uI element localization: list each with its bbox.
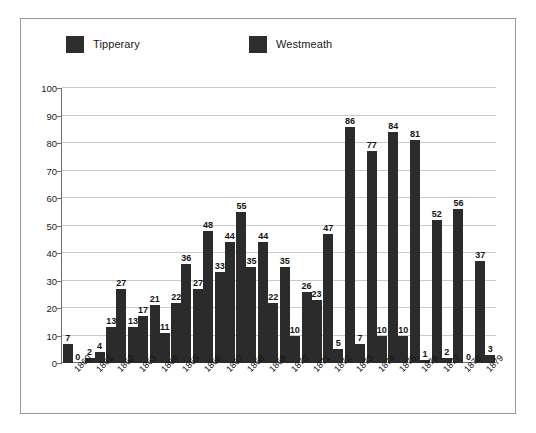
bar-value-label: 36 bbox=[181, 253, 191, 264]
bar-group: 867 bbox=[345, 88, 365, 363]
bar[interactable]: 81 bbox=[410, 140, 420, 363]
bar[interactable]: 23 bbox=[312, 300, 322, 363]
y-tick-label-10: 10 bbox=[46, 330, 57, 341]
bar-value-label: 7 bbox=[357, 333, 362, 344]
legend-label-tipperary: Tipperary bbox=[93, 38, 140, 50]
bar-group: 3510 bbox=[280, 88, 300, 363]
bar-value-label: 10 bbox=[398, 325, 408, 336]
bar[interactable]: 35 bbox=[246, 267, 256, 363]
y-tick-label-60: 60 bbox=[46, 193, 57, 204]
bar[interactable]: 55 bbox=[236, 212, 246, 363]
bar[interactable]: 84 bbox=[388, 132, 398, 363]
bar-value-label: 47 bbox=[323, 223, 333, 234]
bar[interactable]: 35 bbox=[280, 267, 290, 363]
bar-group: 1317 bbox=[128, 88, 148, 363]
y-tick-label-40: 40 bbox=[46, 248, 57, 259]
bar-value-label: 86 bbox=[345, 116, 355, 127]
bar-group: 2748 bbox=[193, 88, 213, 363]
bar-value-label: 84 bbox=[388, 121, 398, 132]
bar-group: 2236 bbox=[171, 88, 191, 363]
bar-value-label: 7 bbox=[65, 333, 70, 344]
bar-value-label: 13 bbox=[106, 316, 116, 327]
bar[interactable]: 44 bbox=[258, 242, 268, 363]
bar-value-label: 81 bbox=[410, 129, 420, 140]
bar-value-label: 21 bbox=[150, 294, 160, 305]
bar-group: 2623 bbox=[302, 88, 322, 363]
bar[interactable]: 77 bbox=[367, 151, 377, 363]
bar-group: 8410 bbox=[388, 88, 408, 363]
bar-value-label: 3 bbox=[488, 344, 493, 355]
bar[interactable]: 44 bbox=[225, 242, 235, 363]
bar-value-label: 22 bbox=[268, 292, 278, 303]
bar-value-label: 5 bbox=[336, 338, 341, 349]
bar-value-label: 10 bbox=[377, 325, 387, 336]
legend-entry-tipperary[interactable]: Tipperary bbox=[66, 34, 140, 54]
bar-group: 811 bbox=[410, 88, 430, 363]
bar-value-label: 13 bbox=[128, 316, 138, 327]
bar-value-label: 26 bbox=[302, 281, 312, 292]
bar-value-label: 11 bbox=[160, 322, 170, 333]
legend-swatch-tipperary bbox=[66, 36, 84, 53]
bar-value-label: 27 bbox=[193, 278, 203, 289]
bar-value-label: 10 bbox=[290, 325, 300, 336]
bar-group: 3344 bbox=[215, 88, 235, 363]
y-tick-label-100: 100 bbox=[41, 83, 57, 94]
bar-group: 1327 bbox=[106, 88, 126, 363]
y-axis-labels: 1009080706050403020100 bbox=[21, 88, 57, 363]
bar-value-label: 44 bbox=[225, 231, 235, 242]
bar-value-label: 37 bbox=[475, 250, 485, 261]
bar-value-label: 2 bbox=[444, 347, 449, 358]
bar[interactable]: 37 bbox=[475, 261, 485, 363]
bar[interactable]: 56 bbox=[453, 209, 463, 363]
bar-value-label: 35 bbox=[246, 256, 256, 267]
bar-value-label: 33 bbox=[215, 261, 225, 272]
legend-entry-westmeath[interactable]: Westmeath bbox=[249, 34, 332, 54]
bar-group: 2111 bbox=[150, 88, 170, 363]
bar-group: 5535 bbox=[236, 88, 256, 363]
bar[interactable]: 27 bbox=[116, 289, 126, 363]
x-axis-labels: 1860186118621863186418651866186718681869… bbox=[62, 365, 496, 411]
bar[interactable]: 52 bbox=[432, 220, 442, 363]
bar-value-label: 77 bbox=[367, 140, 377, 151]
chart-legend: Tipperary Westmeath bbox=[21, 31, 515, 63]
bar-value-label: 44 bbox=[258, 231, 268, 242]
bar[interactable]: 7 bbox=[63, 344, 73, 363]
bar-value-label: 23 bbox=[312, 289, 322, 300]
bar-value-label: 17 bbox=[138, 305, 148, 316]
bar-group: 373 bbox=[475, 88, 495, 363]
bar-value-label: 35 bbox=[280, 256, 290, 267]
y-tick-label-70: 70 bbox=[46, 165, 57, 176]
bar-group: 560 bbox=[453, 88, 473, 363]
bar-group: 4422 bbox=[258, 88, 278, 363]
bar-value-label: 4 bbox=[97, 341, 102, 352]
y-tick-label-50: 50 bbox=[46, 220, 57, 231]
bar-value-label: 27 bbox=[116, 278, 126, 289]
bar[interactable]: 27 bbox=[193, 289, 203, 363]
bar-group: 475 bbox=[323, 88, 343, 363]
bar[interactable]: 33 bbox=[215, 272, 225, 363]
bar[interactable]: 36 bbox=[181, 264, 191, 363]
bar-value-label: 22 bbox=[171, 292, 181, 303]
bar-group: 70 bbox=[63, 88, 83, 363]
bar[interactable]: 22 bbox=[268, 303, 278, 364]
bar[interactable]: 48 bbox=[203, 231, 213, 363]
bar-group: 522 bbox=[432, 88, 452, 363]
bar-value-label: 56 bbox=[453, 198, 463, 209]
plot-area: 7024132713172111223627483344553544223510… bbox=[62, 88, 496, 363]
bar-value-label: 55 bbox=[236, 201, 246, 212]
y-tick-label-20: 20 bbox=[46, 303, 57, 314]
y-tick-label-80: 80 bbox=[46, 138, 57, 149]
bar[interactable]: 47 bbox=[323, 234, 333, 363]
legend-swatch-westmeath bbox=[249, 36, 267, 53]
chart-frame: Tipperary Westmeath 10090807060504030201… bbox=[20, 18, 516, 414]
legend-label-westmeath: Westmeath bbox=[276, 38, 332, 50]
y-tick-label-30: 30 bbox=[46, 275, 57, 286]
bar-value-label: 48 bbox=[203, 220, 213, 231]
bar-value-label: 52 bbox=[432, 209, 442, 220]
bar-group: 7710 bbox=[367, 88, 387, 363]
y-tick-label-90: 90 bbox=[46, 110, 57, 121]
bar-group: 24 bbox=[85, 88, 105, 363]
bar[interactable]: 86 bbox=[345, 127, 355, 364]
